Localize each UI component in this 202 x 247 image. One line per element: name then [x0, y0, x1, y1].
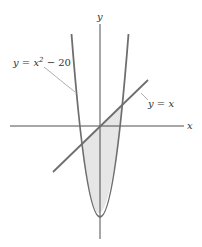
parabola-leader [44, 67, 75, 92]
y-axis-label: y [96, 11, 103, 22]
x-axis-label: x [187, 120, 193, 131]
line-leader [141, 93, 148, 100]
parabola-label: y = x2 − 20 [12, 56, 71, 68]
parabola-label-base: y = x [12, 57, 39, 68]
line-label: y = x [147, 98, 174, 109]
parabola-label-suffix: − 20 [44, 57, 71, 68]
region-diagram: y x y = x2 − 20 y = x [0, 0, 202, 247]
